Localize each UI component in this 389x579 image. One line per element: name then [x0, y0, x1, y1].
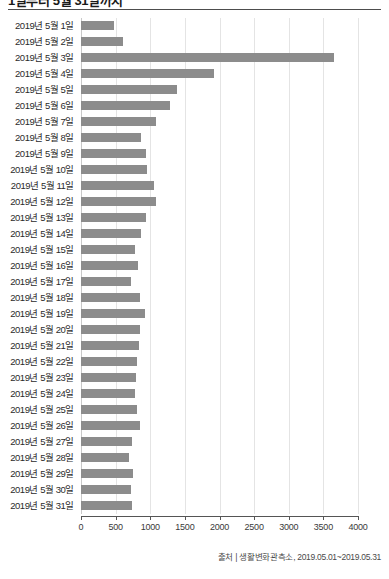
bar — [81, 37, 123, 46]
title-clip-region: 1일부터 5월 31일까지 — [0, 0, 389, 9]
bar-row: 2019년 5월 22일 — [0, 354, 389, 370]
page-title: 1일부터 5월 31일까지 — [8, 0, 123, 9]
bar-row: 2019년 5월 29일 — [0, 466, 389, 482]
bar-track — [81, 21, 114, 30]
bar — [81, 373, 136, 382]
y-axis-label: 2019년 5월 21일 — [0, 339, 74, 352]
bar — [81, 165, 147, 174]
bar — [81, 245, 135, 254]
bar — [81, 181, 154, 190]
bar-track — [81, 453, 129, 462]
bar-track — [81, 245, 135, 254]
bar-row: 2019년 5월 7일 — [0, 114, 389, 130]
bar-row: 2019년 5월 26일 — [0, 418, 389, 434]
bar — [81, 469, 133, 478]
bar — [81, 309, 145, 318]
x-axis-tick-1000 — [150, 516, 151, 520]
bar-track — [81, 53, 334, 62]
x-axis-tick-4000 — [358, 516, 359, 520]
bar-track — [81, 261, 138, 270]
bar-row: 2019년 5월 3일 — [0, 50, 389, 66]
bar-track — [81, 213, 146, 222]
bar-track — [81, 405, 137, 414]
bar-row: 2019년 5월 28일 — [0, 450, 389, 466]
bar — [81, 21, 114, 30]
y-axis-label: 2019년 5월 25일 — [0, 403, 74, 416]
x-axis-tick-3000 — [289, 516, 290, 520]
bar-row: 2019년 5월 16일 — [0, 258, 389, 274]
bar — [81, 133, 141, 142]
bar-track — [81, 373, 136, 382]
y-axis-label: 2019년 5월 17일 — [0, 275, 74, 288]
y-axis-label: 2019년 5월 28일 — [0, 451, 74, 464]
bar-row: 2019년 5월 6일 — [0, 98, 389, 114]
bar-row: 2019년 5월 14일 — [0, 226, 389, 242]
y-axis-label: 2019년 5월 14일 — [0, 227, 74, 240]
y-axis-label: 2019년 5월 7일 — [0, 115, 74, 128]
y-axis-label: 2019년 5월 15일 — [0, 243, 74, 256]
bar-track — [81, 85, 177, 94]
y-axis-label: 2019년 5월 5일 — [0, 83, 74, 96]
x-axis-tick-label: 4000 — [338, 522, 378, 532]
y-axis-label: 2019년 5월 23일 — [0, 371, 74, 384]
bar-track — [81, 469, 133, 478]
bar-row: 2019년 5월 20일 — [0, 322, 389, 338]
bar-row: 2019년 5월 18일 — [0, 290, 389, 306]
bar-track — [81, 357, 137, 366]
y-axis-label: 2019년 5월 4일 — [0, 67, 74, 80]
y-axis-label: 2019년 5월 10일 — [0, 163, 74, 176]
source-note: 출처 | 생활변화관측소, 2019.05.01~2019.05.31 — [218, 550, 381, 562]
bar — [81, 69, 214, 78]
bar-track — [81, 149, 146, 158]
bar — [81, 197, 156, 206]
bar-row: 2019년 5월 31일 — [0, 498, 389, 514]
x-axis-tick-2500 — [254, 516, 255, 520]
bar — [81, 501, 132, 510]
bar-track — [81, 133, 141, 142]
bar-track — [81, 277, 131, 286]
bar-track — [81, 197, 156, 206]
bar — [81, 101, 170, 110]
bar-row: 2019년 5월 5일 — [0, 82, 389, 98]
y-axis-label: 2019년 5월 1일 — [0, 19, 74, 32]
bar-track — [81, 229, 141, 238]
bar — [81, 261, 138, 270]
bar — [81, 293, 140, 302]
bar-track — [81, 389, 135, 398]
bar-track — [81, 325, 140, 334]
y-axis-label: 2019년 5월 3일 — [0, 51, 74, 64]
bar-track — [81, 101, 170, 110]
bar — [81, 421, 140, 430]
y-axis-label: 2019년 5월 11일 — [0, 179, 74, 192]
y-axis-label: 2019년 5월 12일 — [0, 195, 74, 208]
x-axis-tick-1500 — [185, 516, 186, 520]
bar-row: 2019년 5월 17일 — [0, 274, 389, 290]
bar-track — [81, 117, 156, 126]
title-divider — [8, 9, 381, 10]
y-axis-label: 2019년 5월 9일 — [0, 147, 74, 160]
y-axis-label: 2019년 5월 6일 — [0, 99, 74, 112]
y-axis-label: 2019년 5월 2일 — [0, 35, 74, 48]
x-axis-tick-500 — [116, 516, 117, 520]
y-axis-label: 2019년 5월 16일 — [0, 259, 74, 272]
bar — [81, 213, 146, 222]
bar — [81, 357, 137, 366]
bar-row: 2019년 5월 13일 — [0, 210, 389, 226]
bar-row: 2019년 5월 12일 — [0, 194, 389, 210]
bar-row: 2019년 5월 19일 — [0, 306, 389, 322]
x-axis-tick-2000 — [220, 516, 221, 520]
bar-rows: 2019년 5월 1일2019년 5월 2일2019년 5월 3일2019년 5… — [0, 18, 389, 514]
bar — [81, 389, 135, 398]
x-axis: 05001000150020002500300035004000 — [0, 516, 389, 546]
bar-row: 2019년 5월 1일 — [0, 18, 389, 34]
y-axis-label: 2019년 5월 20일 — [0, 323, 74, 336]
bar-track — [81, 341, 139, 350]
bar — [81, 85, 177, 94]
bar-row: 2019년 5월 24일 — [0, 386, 389, 402]
bar-track — [81, 309, 145, 318]
y-axis-label: 2019년 5월 24일 — [0, 387, 74, 400]
bar-row: 2019년 5월 30일 — [0, 482, 389, 498]
bar — [81, 325, 140, 334]
bar-row: 2019년 5월 27일 — [0, 434, 389, 450]
y-axis-label: 2019년 5월 18일 — [0, 291, 74, 304]
